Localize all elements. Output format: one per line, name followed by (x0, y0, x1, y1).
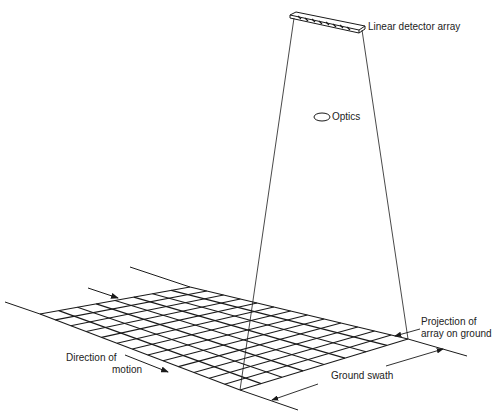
label-direction-1: Direction of (66, 352, 117, 364)
label-ground-swath: Ground swath (331, 370, 393, 382)
label-projection-1: Projection of (421, 316, 477, 328)
label-linear-detector-array: Linear detector array (368, 21, 460, 33)
label-optics: Optics (332, 111, 360, 123)
label-projection-2: array on ground (421, 328, 492, 340)
optics-lens (314, 113, 330, 121)
linear-detector-array (290, 12, 365, 33)
label-direction-2: motion (112, 364, 142, 376)
